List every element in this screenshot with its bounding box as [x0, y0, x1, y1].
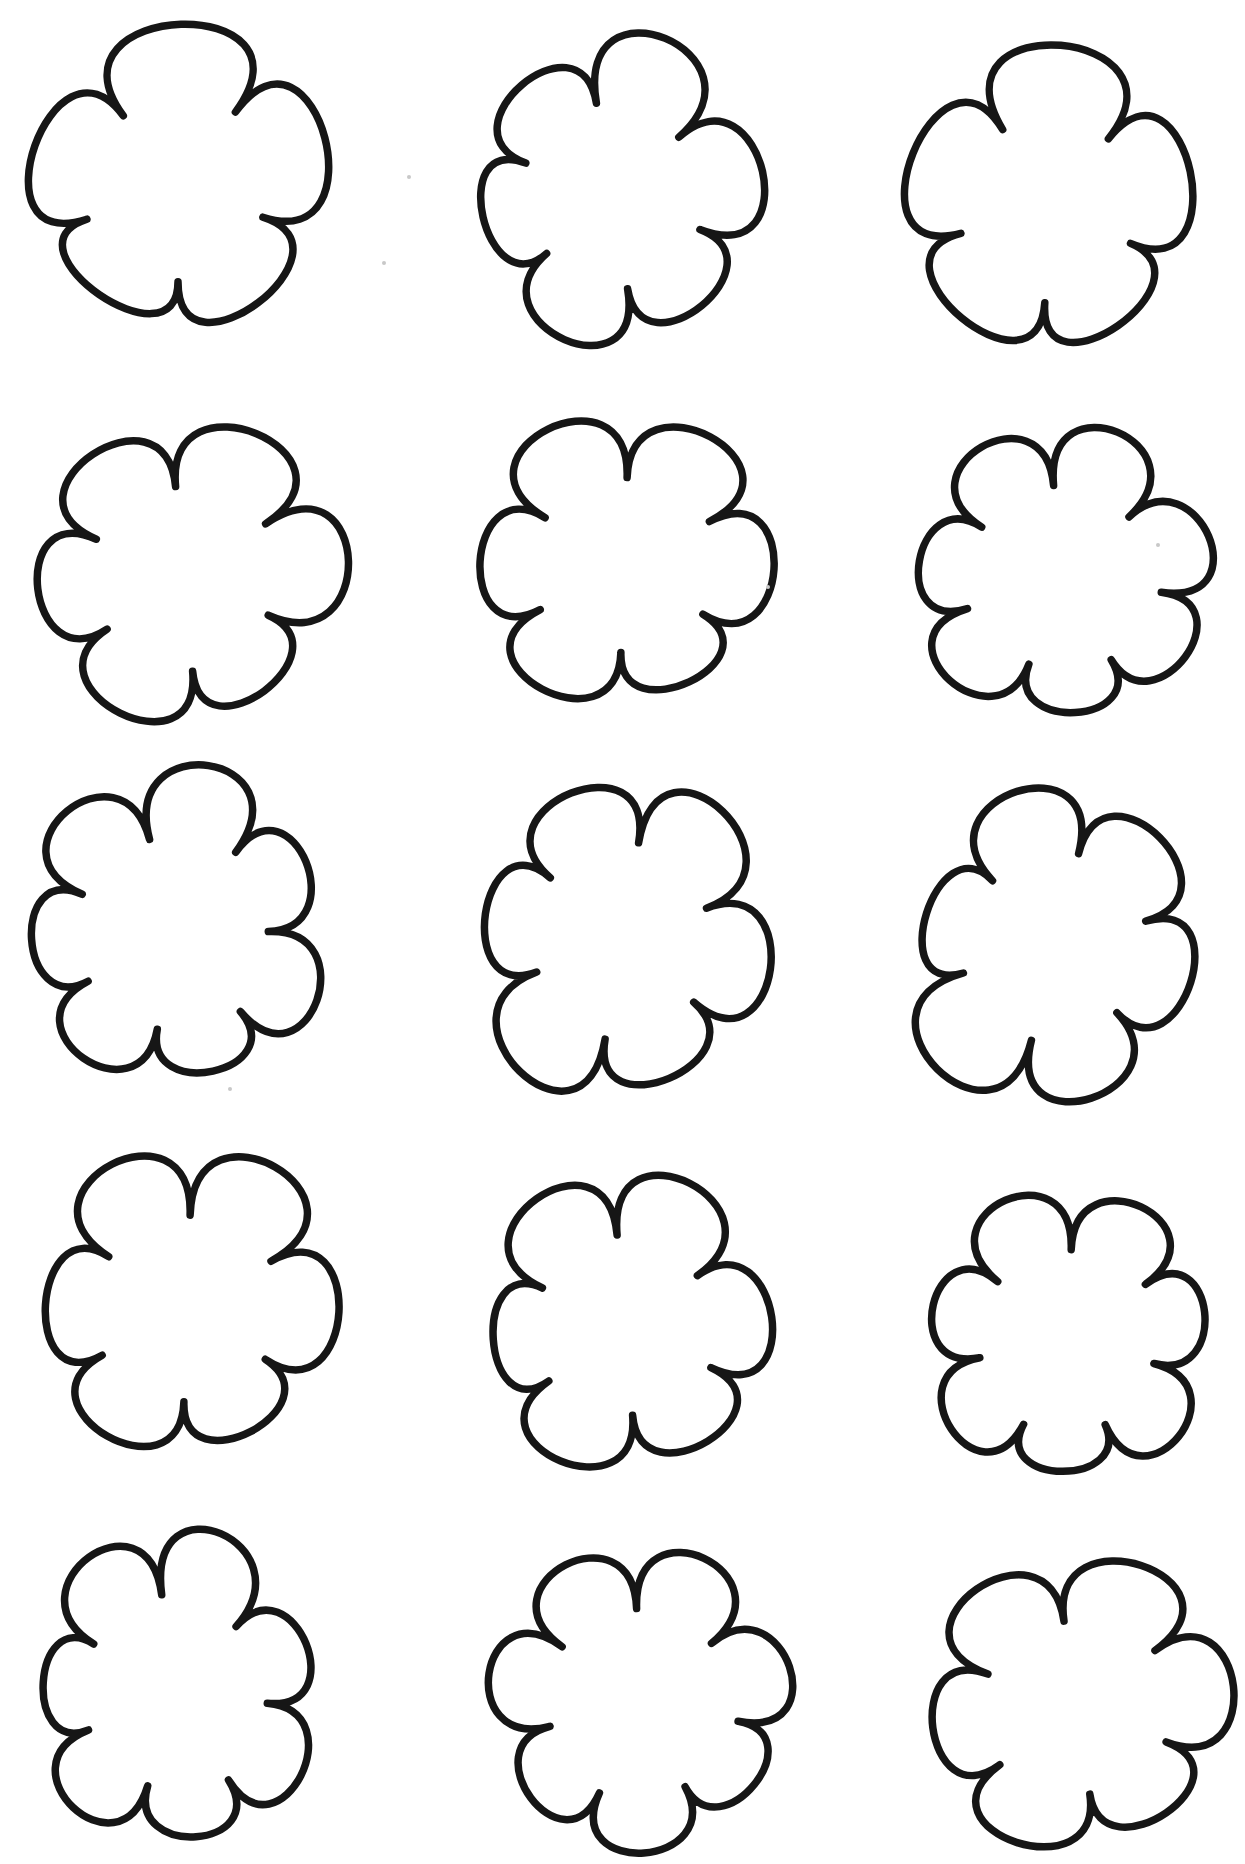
flower-r4c2 — [493, 1175, 773, 1467]
flower-r4c3 — [932, 1195, 1205, 1471]
scan-speck — [382, 261, 386, 265]
flower-r4c1 — [45, 1156, 339, 1447]
flower-r2c3 — [918, 427, 1213, 712]
flower-r3c3 — [915, 788, 1195, 1102]
template-page — [0, 0, 1245, 1864]
flower-r3c1 — [31, 765, 320, 1073]
scan-speck — [766, 585, 770, 589]
flower-r5c1 — [43, 1529, 311, 1837]
flower-r5c2 — [488, 1553, 792, 1854]
flower-r5c3 — [932, 1561, 1234, 1847]
scan-speck — [407, 175, 411, 179]
flower-r2c1 — [37, 427, 348, 722]
flower-grid — [28, 24, 1234, 1853]
flower-r3c2 — [484, 787, 771, 1091]
flower-grid-canvas — [0, 0, 1245, 1864]
flower-r1c2 — [481, 33, 765, 346]
scan-speck — [1156, 543, 1160, 547]
scan-speck — [228, 1087, 232, 1091]
flower-r2c2 — [480, 421, 774, 699]
flower-r1c1 — [28, 24, 328, 322]
flower-r1c3 — [904, 45, 1192, 343]
